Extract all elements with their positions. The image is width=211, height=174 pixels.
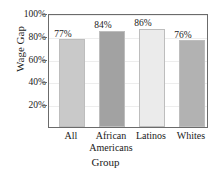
bar-whites bbox=[179, 40, 205, 127]
y-tick-mark bbox=[42, 60, 47, 61]
y-axis-tick-labels: 100% 80% 60% 40% 20% bbox=[16, 10, 46, 120]
y-tick-mark bbox=[42, 82, 47, 83]
bar-latinos bbox=[139, 29, 165, 127]
bar-chart-figure: Wage Gap 100% 80% 60% 40% 20% 77% 84% 86… bbox=[0, 0, 211, 174]
x-tick-line2: Americans bbox=[78, 142, 144, 154]
y-tick-mark bbox=[42, 14, 47, 15]
x-tick-label-whites: Whites bbox=[158, 130, 211, 142]
y-tick-mark bbox=[42, 105, 47, 106]
bar-value-label: 77% bbox=[41, 29, 85, 39]
bar-value-label: 76% bbox=[161, 30, 205, 40]
bar-value-label: 86% bbox=[121, 18, 165, 28]
cropped-title-sliver bbox=[0, 0, 211, 3]
bar-all bbox=[59, 39, 85, 127]
x-tick-line1: Whites bbox=[177, 130, 205, 141]
bar-value-label: 84% bbox=[81, 20, 125, 30]
x-tick-line1: All bbox=[65, 130, 78, 141]
bar-african-americans bbox=[99, 31, 125, 127]
x-axis-title: Group bbox=[0, 156, 211, 169]
